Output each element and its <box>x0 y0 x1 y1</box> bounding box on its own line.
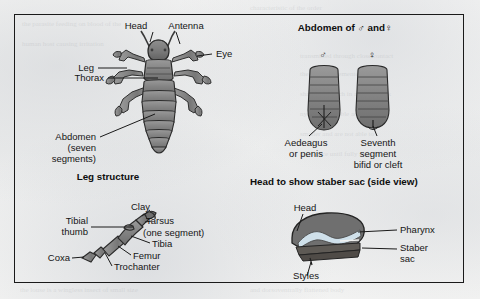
heading-head-side-view: Head to show staber sac (side view) <box>250 176 418 187</box>
heading-leg-structure: Leg structure <box>77 171 140 182</box>
louse-abdomen <box>142 80 176 153</box>
label-coxa: Coxa <box>48 252 71 263</box>
leg-tibial-thumb <box>124 225 134 230</box>
label-aedeagus-1: Aedeagus <box>285 137 328 148</box>
abdomen-sexes-drawing: Abdomen of ♂ and♀ ♂ ♀ <box>285 22 403 170</box>
symbol-female: ♀ <box>368 49 375 60</box>
label-tibial-1: Tibial <box>66 215 88 226</box>
label-styles: Styles <box>293 270 319 281</box>
label-tibial-2: thumb <box>62 226 88 237</box>
label-abdomen-note2: segments) <box>52 153 96 164</box>
male-abdomen <box>308 66 340 131</box>
eye-left-dot <box>151 49 154 52</box>
label-tarsus: Tarsus <box>146 215 174 226</box>
label-eye: Eye <box>216 48 232 59</box>
head-side-view-drawing: Head to show staber sac (side view) Head… <box>250 176 435 281</box>
label-abdomen-note1: (seven <box>67 142 96 153</box>
label-clay: Clay <box>131 201 150 212</box>
legs-right <box>172 50 211 116</box>
label-seventh-2: segment <box>360 148 397 159</box>
label-aedeagus-2: or penis <box>289 148 323 159</box>
eye-right-dot <box>164 49 167 52</box>
label-seventh-1: Seventh <box>361 137 396 148</box>
label-staber-1: Staber <box>400 242 428 253</box>
label-pharynx: Pharynx <box>400 224 435 235</box>
heading-abdomen-sexes: Abdomen of ♂ and♀ <box>298 22 393 33</box>
louse-anatomy-figure: Head Antenna Eye Leg Thorax Abdomen (sev… <box>0 0 480 299</box>
label-abdomen: Abdomen <box>55 131 96 142</box>
label-seventh-3: bifid or cleft <box>354 159 403 170</box>
label-antenna: Antenna <box>168 20 204 31</box>
label-trochanter: Trochanter <box>114 261 160 272</box>
label-thorax: Thorax <box>74 72 104 83</box>
label-staber-2: sac <box>400 253 415 264</box>
leg-structure-drawing: Leg structure <box>48 171 204 272</box>
label-tarsus-note: (one segment) <box>143 227 204 238</box>
label-head-side: Head <box>294 202 317 213</box>
label-tibia: Tibia <box>152 238 173 249</box>
female-abdomen <box>356 66 389 130</box>
legs-left <box>106 50 145 116</box>
label-head: Head <box>125 20 148 31</box>
label-femur: Femur <box>133 250 160 261</box>
symbol-male: ♂ <box>319 49 326 60</box>
whole-body-louse-drawing: Head Antenna Eye Leg Thorax Abdomen (sev… <box>52 20 233 164</box>
